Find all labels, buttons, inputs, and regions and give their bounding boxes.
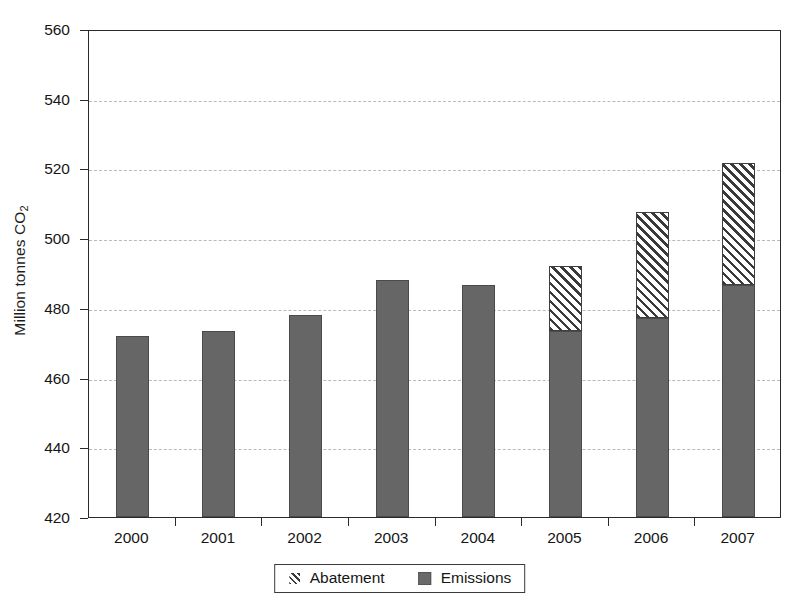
x-axis-tick-mark <box>348 518 349 526</box>
bar-group <box>462 29 495 517</box>
bar-segment-emissions <box>636 318 669 517</box>
legend-label: Emissions <box>441 569 512 587</box>
x-axis-tick-mark <box>261 518 262 526</box>
y-axis-tick-label: 500 <box>26 230 70 248</box>
y-axis-tick-mark <box>80 309 88 310</box>
x-axis-tick-label: 2001 <box>178 529 258 547</box>
y-axis-tick-mark <box>80 169 88 170</box>
y-axis-tick-mark <box>80 518 88 519</box>
bar-segment-emissions <box>462 285 495 517</box>
bar-segment-abatement <box>636 212 669 318</box>
x-axis-tick-label: 2006 <box>611 529 691 547</box>
bar-segment-abatement <box>722 163 755 285</box>
x-axis-tick-label: 2005 <box>524 529 604 547</box>
x-axis-tick-mark <box>175 518 176 526</box>
x-axis-tick-mark <box>521 518 522 526</box>
bar-segment-emissions <box>376 280 409 517</box>
bar-segment-abatement <box>549 266 582 330</box>
x-axis-tick-label: 2002 <box>265 529 345 547</box>
y-axis-tick-mark <box>80 448 88 449</box>
y-axis-title: Million tonnes CO2 <box>0 0 40 540</box>
y-axis-tick-label: 440 <box>26 439 70 457</box>
x-axis-tick-label: 2000 <box>91 529 171 547</box>
x-axis-tick-label: 2003 <box>351 529 431 547</box>
bar-group <box>289 29 322 517</box>
legend-entry: Emissions <box>419 569 512 587</box>
y-axis-title-subscript: 2 <box>18 205 30 211</box>
y-axis-title-main: Million tonnes CO <box>11 211 28 335</box>
y-axis-tick-label: 540 <box>26 91 70 109</box>
bar-group <box>722 29 755 517</box>
y-axis-tick-label: 480 <box>26 300 70 318</box>
x-axis-tick-mark <box>694 518 695 526</box>
bar-group <box>636 29 669 517</box>
y-axis-tick-mark <box>80 30 88 31</box>
chart-figure: Million tonnes CO2 420440460480500520540… <box>0 0 799 609</box>
plot-area <box>88 30 781 518</box>
bar-group <box>376 29 409 517</box>
gridline <box>89 240 780 241</box>
x-axis-tick-mark <box>608 518 609 526</box>
gridline <box>89 310 780 311</box>
hatch-swatch-icon <box>288 572 301 585</box>
bar-segment-emissions <box>202 331 235 517</box>
y-axis-tick-mark <box>80 100 88 101</box>
y-axis-tick-label: 460 <box>26 370 70 388</box>
gridline <box>89 101 780 102</box>
y-axis-tick-label: 420 <box>26 509 70 527</box>
gridline <box>89 380 780 381</box>
x-axis-tick-mark <box>435 518 436 526</box>
y-axis-tick-label: 560 <box>26 21 70 39</box>
bar-segment-emissions <box>289 315 322 517</box>
bar-group <box>549 29 582 517</box>
y-axis-tick-label: 520 <box>26 160 70 178</box>
legend-label: Abatement <box>310 569 385 587</box>
legend-entry: Abatement <box>288 569 385 587</box>
y-axis-tick-mark <box>80 379 88 380</box>
bar-segment-emissions <box>116 336 149 517</box>
chart-legend: AbatementEmissions <box>274 564 526 593</box>
bar-group <box>116 29 149 517</box>
bar-segment-emissions <box>549 331 582 517</box>
y-axis-tick-mark <box>80 239 88 240</box>
gridline <box>89 170 780 171</box>
x-axis-tick-label: 2007 <box>698 529 778 547</box>
x-axis-tick-label: 2004 <box>438 529 518 547</box>
gridline <box>89 449 780 450</box>
bar-group <box>202 29 235 517</box>
solid-swatch-icon <box>419 572 432 585</box>
bar-segment-emissions <box>722 285 755 517</box>
